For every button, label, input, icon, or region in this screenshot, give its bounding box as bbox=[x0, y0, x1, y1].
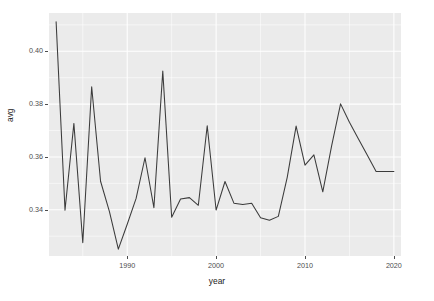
x-tick-label: 1990 bbox=[119, 262, 135, 269]
y-tick-mark bbox=[45, 157, 48, 158]
x-tick-mark bbox=[127, 256, 128, 259]
x-tick-label: 2000 bbox=[208, 262, 224, 269]
y-tick-label: 0.34 bbox=[29, 206, 43, 213]
x-axis-tick-labels: 1990200020102020 bbox=[0, 262, 434, 274]
y-axis-tick-labels: 0.340.360.380.40 bbox=[0, 0, 43, 301]
y-axis-title: avg bbox=[6, 108, 14, 122]
x-tick-mark bbox=[216, 256, 217, 259]
y-tick-mark bbox=[45, 210, 48, 211]
y-tick-label: 0.38 bbox=[29, 100, 43, 107]
line-chart: 0.340.360.380.40 1990200020102020 year a… bbox=[0, 0, 434, 301]
y-tick-label: 0.40 bbox=[29, 47, 43, 54]
plot-panel bbox=[49, 13, 401, 256]
series-line-avg bbox=[56, 22, 394, 249]
y-tick-label: 0.36 bbox=[29, 153, 43, 160]
y-tick-mark bbox=[45, 51, 48, 52]
x-tick-label: 2020 bbox=[386, 262, 402, 269]
series-avg bbox=[49, 13, 401, 256]
x-axis-title: year bbox=[0, 277, 434, 285]
x-tick-mark bbox=[305, 256, 306, 259]
x-tick-label: 2010 bbox=[297, 262, 313, 269]
x-tick-mark bbox=[394, 256, 395, 259]
y-tick-mark bbox=[45, 104, 48, 105]
